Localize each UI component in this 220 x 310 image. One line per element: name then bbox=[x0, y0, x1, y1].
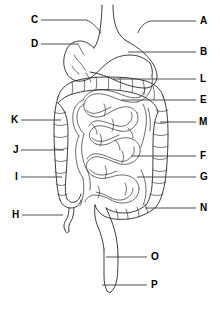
label-E: E bbox=[200, 95, 207, 105]
rectum-outline bbox=[104, 249, 118, 293]
label-B: B bbox=[200, 47, 207, 57]
digestive-system-diagram: C D K J I H A B L E M F G N O P bbox=[0, 0, 220, 310]
label-J: J bbox=[13, 145, 19, 155]
label-I: I bbox=[15, 172, 18, 182]
label-G: G bbox=[200, 172, 208, 182]
label-A: A bbox=[200, 16, 207, 26]
label-P: P bbox=[151, 280, 158, 290]
label-O: O bbox=[151, 252, 159, 262]
label-N: N bbox=[200, 203, 207, 213]
label-H: H bbox=[12, 210, 19, 220]
label-K: K bbox=[11, 115, 18, 125]
label-F: F bbox=[200, 151, 206, 161]
leader-line-A-hook bbox=[138, 21, 150, 33]
appendix-outline bbox=[64, 208, 74, 233]
label-M: M bbox=[199, 117, 207, 127]
leader-lines bbox=[21, 20, 196, 285]
label-D: D bbox=[31, 39, 38, 49]
large-intestine-outline bbox=[54, 77, 168, 256]
label-L: L bbox=[200, 74, 206, 84]
leader-line-C bbox=[41, 20, 101, 33]
label-C: C bbox=[31, 15, 38, 25]
esophagus-outline bbox=[94, 5, 125, 48]
